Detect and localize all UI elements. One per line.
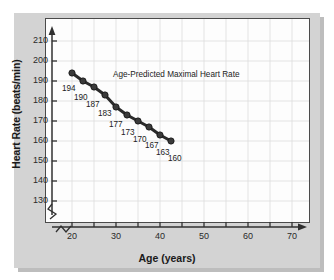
point-value-label: 194	[62, 84, 76, 93]
y-tick-label-190: 190	[26, 75, 48, 85]
data-point	[124, 112, 130, 118]
data-point	[102, 92, 108, 98]
grid-vertical	[72, 19, 292, 222]
y-axis-arrow	[49, 26, 56, 35]
x-tick-label-60: 60	[237, 231, 259, 241]
y-tick-label-210: 210	[26, 35, 48, 45]
data-point	[69, 70, 75, 76]
x-tick-label-30: 30	[105, 231, 127, 241]
x-tick-label-40: 40	[149, 231, 171, 241]
y-tick-label-170: 170	[26, 115, 48, 125]
chart-figure: 210 200 190 180 170 160 150 140 130 20 3…	[0, 0, 334, 280]
point-value-label: 187	[86, 100, 100, 109]
y-tick-label-150: 150	[26, 155, 48, 165]
y-tick-label-160: 160	[26, 135, 48, 145]
point-value-label: 160	[168, 154, 182, 163]
data-point	[91, 84, 97, 90]
data-point	[113, 104, 119, 110]
data-point	[80, 78, 86, 84]
point-value-label: 183	[98, 109, 112, 118]
y-axis-title: Heart Rate (beats/min)	[10, 34, 22, 194]
y-tick-label-200: 200	[26, 55, 48, 65]
data-point	[168, 138, 174, 144]
chart-inline-title: Age-Predicted Maximal Heart Rate	[113, 70, 240, 79]
y-tick-label-180: 180	[26, 95, 48, 105]
data-point	[157, 132, 163, 138]
x-tick-label-20: 20	[61, 231, 83, 241]
x-tick-label-70: 70	[281, 231, 303, 241]
data-point	[135, 118, 141, 124]
x-axis-arrow	[298, 224, 307, 231]
y-tick-label-140: 140	[26, 175, 48, 185]
y-tick-label-130: 130	[26, 195, 48, 205]
grid-horizontal	[46, 41, 309, 201]
data-point	[146, 124, 152, 130]
x-tick-label-50: 50	[193, 231, 215, 241]
x-axis-title: Age (years)	[0, 252, 334, 264]
